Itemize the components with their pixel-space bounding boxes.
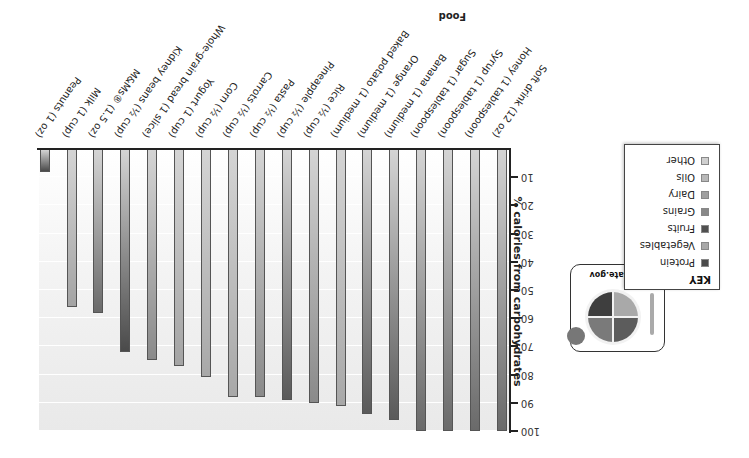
y-tick-label: 70	[521, 341, 545, 351]
legend-item: Dairy	[668, 189, 709, 201]
plate-vegetables	[614, 292, 638, 316]
fork-icon	[650, 293, 654, 335]
y-tick	[511, 176, 518, 178]
bar	[497, 149, 507, 431]
bar	[94, 149, 104, 313]
bar	[120, 149, 130, 352]
bar	[309, 149, 319, 403]
legend-item: Vegetables	[640, 240, 709, 252]
y-tick	[511, 402, 518, 404]
legend-swatch	[701, 191, 709, 199]
y-tick-label: 10	[521, 172, 545, 182]
plot-area	[39, 149, 509, 431]
bar	[174, 149, 184, 366]
legend-label: Oils	[676, 173, 695, 184]
legend-item: Oils	[676, 172, 709, 184]
figure: 102030405060708090100 Soft drink (12 oz)…	[0, 0, 749, 458]
y-tick-label: 40	[521, 257, 545, 267]
legend-item: Grains	[663, 206, 709, 218]
y-axis-title: % calories from carbohydrates	[511, 182, 524, 402]
legend-item: Protein	[660, 257, 709, 269]
y-tick-label: 60	[521, 313, 545, 323]
bar	[336, 149, 346, 406]
y-tick	[511, 430, 518, 432]
dairy-cup-icon	[567, 327, 585, 345]
y-tick-label: 20	[521, 200, 545, 210]
bar	[389, 149, 399, 420]
bar	[228, 149, 238, 397]
legend-swatch	[701, 225, 709, 233]
bar	[40, 149, 50, 172]
bar	[147, 149, 157, 361]
legend-label: Grains	[663, 207, 695, 218]
y-tick-label: 30	[521, 229, 545, 239]
x-tick-label: Soft drink (12 oz)	[490, 63, 549, 140]
bar	[201, 149, 211, 377]
bar	[416, 149, 426, 431]
plate-fruits	[614, 318, 638, 342]
legend-label: Fruits	[668, 224, 695, 235]
y-tick-label: 80	[521, 370, 545, 380]
legend-swatch	[701, 242, 709, 250]
legend-label: Protein	[660, 258, 695, 269]
bar	[363, 149, 373, 414]
plate-icon	[585, 289, 641, 345]
y-tick-label: 90	[521, 398, 545, 408]
bar	[470, 149, 480, 431]
y-tick-label: 50	[521, 285, 545, 295]
legend: KEY ProteinVegetablesFruitsGrainsDairyOi…	[624, 144, 720, 290]
legend-swatch	[701, 259, 709, 267]
legend-item: Other	[667, 155, 709, 167]
bar	[255, 149, 265, 397]
bar	[443, 149, 453, 431]
legend-label: Dairy	[668, 190, 695, 201]
legend-swatch	[701, 174, 709, 182]
legend-item: Fruits	[668, 223, 709, 235]
legend-title: KEY	[689, 274, 711, 285]
legend-label: Other	[667, 156, 695, 167]
bar	[67, 149, 77, 307]
legend-label: Vegetables	[640, 241, 695, 252]
plate-protein	[588, 292, 612, 316]
legend-swatch	[701, 208, 709, 216]
x-axis-title: Food	[439, 11, 466, 22]
legend-swatch	[701, 157, 709, 165]
x-axis-line	[37, 148, 511, 150]
bar	[282, 149, 292, 400]
plate-grains	[588, 318, 612, 342]
y-tick-label: 100	[521, 426, 545, 436]
